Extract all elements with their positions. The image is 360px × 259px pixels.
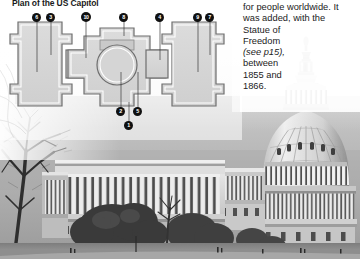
page-root: Plan of the US Capitol bbox=[0, 0, 360, 259]
plan-right-wing bbox=[162, 22, 224, 106]
plan-marker-4[interactable]: 4 bbox=[155, 13, 164, 22]
plan-right-corridor bbox=[146, 50, 168, 78]
plan-title: Plan of the US Capitol bbox=[12, 0, 99, 8]
plan-marker-10[interactable]: 10 bbox=[81, 12, 91, 22]
plan-marker-2[interactable]: 2 bbox=[116, 107, 125, 116]
plan-marker-5[interactable]: 5 bbox=[133, 107, 142, 116]
plan-marker-8[interactable]: 8 bbox=[119, 13, 128, 22]
plan-marker-6[interactable]: 6 bbox=[32, 13, 41, 22]
caption-line-6: between bbox=[243, 58, 355, 69]
plan-marker-3[interactable]: 3 bbox=[46, 13, 55, 22]
caption-line-5-reference: (see p15), bbox=[243, 47, 355, 58]
caption-line-3: Statue of bbox=[243, 25, 355, 36]
plan-marker-9[interactable]: 9 bbox=[193, 13, 202, 22]
plan-marker-1[interactable]: 1 bbox=[124, 121, 133, 130]
plan-marker-7[interactable]: 7 bbox=[205, 13, 214, 22]
caption-line-1: for people worldwide. It bbox=[243, 2, 355, 13]
caption-line-7: 1855 and bbox=[243, 70, 355, 81]
caption-text: for people worldwide. It was added, with… bbox=[243, 2, 355, 92]
caption-line-2: was added, with the bbox=[243, 13, 355, 24]
caption-line-8: 1866. bbox=[243, 81, 355, 92]
plan-left-wing bbox=[10, 22, 72, 106]
caption-line-4: Freedom bbox=[243, 36, 355, 47]
plan-rotunda bbox=[97, 45, 137, 85]
